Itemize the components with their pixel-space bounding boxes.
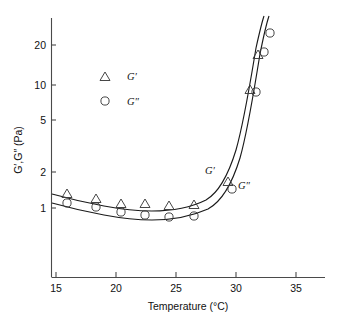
x-tick-marks <box>56 272 296 278</box>
data-point-marker <box>260 48 268 56</box>
x-tick-label-30: 30 <box>230 282 242 294</box>
y-tick-label-10: 10 <box>34 79 46 91</box>
y-tick-label-20: 20 <box>34 39 46 51</box>
data-point-marker <box>141 211 149 219</box>
data-point-marker <box>91 194 101 203</box>
y-tick-marks <box>52 45 57 208</box>
series-g-prime-markers <box>62 50 263 210</box>
data-point-marker <box>63 199 71 207</box>
data-point-marker <box>190 212 198 220</box>
chart-canvas: 20 10 5 2 1 15 20 25 30 35 Temperature (… <box>0 0 339 327</box>
data-point-marker <box>165 213 173 221</box>
y-tick-label-2: 2 <box>40 166 46 178</box>
y-tick-label-1: 1 <box>40 202 46 214</box>
chart-figure: 20 10 5 2 1 15 20 25 30 35 Temperature (… <box>0 0 339 327</box>
y-tick-labels: 20 10 5 2 1 <box>34 39 46 214</box>
data-point-marker <box>266 29 274 37</box>
x-tick-label-20: 20 <box>110 282 122 294</box>
data-point-marker <box>62 189 72 198</box>
y-tick-label-5: 5 <box>40 114 46 126</box>
curve-annotation-g-prime: G′ <box>205 165 216 176</box>
x-tick-label-35: 35 <box>290 282 302 294</box>
legend-label-g-double-prime: G″ <box>127 96 140 107</box>
data-point-marker <box>164 201 174 210</box>
x-tick-label-25: 25 <box>170 282 182 294</box>
x-tick-label-15: 15 <box>50 282 62 294</box>
curve-annotation-g-double-prime: G″ <box>238 180 251 191</box>
data-point-marker <box>116 199 126 208</box>
data-point-marker <box>140 199 150 208</box>
x-axis-title: Temperature (°C) <box>148 300 229 312</box>
axis-lines <box>52 18 326 278</box>
y-axis-title: G′,G″ (Pa) <box>12 126 24 174</box>
legend-label-g-prime: G′ <box>127 71 138 82</box>
chart-legend: G′ G″ <box>100 71 140 107</box>
data-point-marker <box>228 185 236 193</box>
legend-circle-icon <box>101 97 109 105</box>
x-tick-labels: 15 20 25 30 35 <box>50 282 302 294</box>
fit-curve-g-prime <box>52 16 264 211</box>
legend-triangle-icon <box>100 72 110 81</box>
